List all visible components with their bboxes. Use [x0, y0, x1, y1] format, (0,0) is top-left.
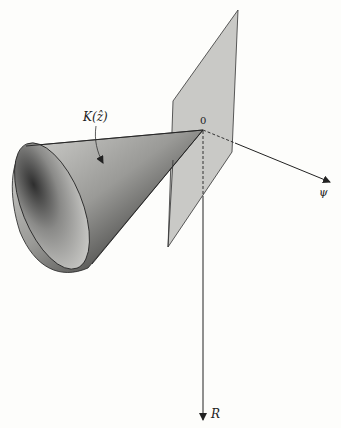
- cone-label: K(ẑ): [83, 111, 108, 123]
- origin-label: 0: [200, 116, 206, 126]
- psi-axis: [235, 143, 330, 182]
- diagram-canvas: [0, 0, 341, 428]
- psi-axis-label: ψ: [319, 187, 328, 198]
- r-axis-label: R: [211, 408, 220, 420]
